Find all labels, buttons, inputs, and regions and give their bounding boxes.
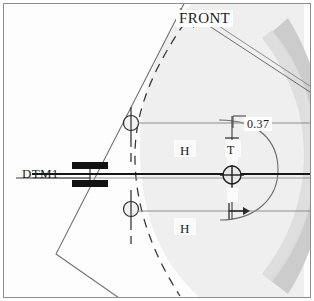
view-label-front: FRONT	[176, 10, 233, 27]
dimension-value-label: 0.37	[244, 117, 272, 131]
target-label-t: T	[227, 144, 234, 156]
label-knockout-center-lower	[227, 188, 238, 202]
target-label-h-upper: H	[180, 144, 189, 157]
drawing-frame: FRONT DTM1 0.37 H H T	[3, 3, 311, 298]
label-knockout-center-upper	[227, 156, 238, 165]
target-label-h-lower: H	[180, 222, 189, 235]
cad-drawing-screenshot: FRONT DTM1 0.37 H H T	[0, 0, 314, 301]
datum-label-dtm1: DTM1	[22, 167, 59, 180]
drawing-canvas[interactable]	[4, 4, 310, 297]
